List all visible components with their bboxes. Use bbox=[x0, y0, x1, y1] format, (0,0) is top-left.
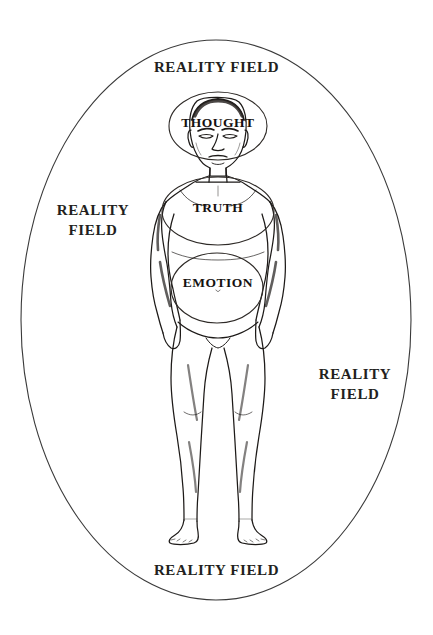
left-hand bbox=[163, 320, 180, 349]
reality-field-label-right: REALITY FIELD bbox=[300, 365, 410, 405]
reality-field-label-left: REALITY FIELD bbox=[38, 201, 148, 241]
left-thigh-shading bbox=[188, 365, 197, 420]
groin-line bbox=[206, 338, 230, 348]
right-calf-shading bbox=[240, 442, 247, 492]
zone-label-thought: THOUGHT bbox=[148, 115, 288, 131]
right-knee bbox=[235, 412, 252, 415]
zone-label-emotion: EMOTION bbox=[148, 275, 288, 291]
human-figure-front-view bbox=[151, 97, 286, 544]
reality-field-label-bottom: REALITY FIELD bbox=[0, 561, 433, 581]
right-toes bbox=[244, 539, 265, 542]
diagram-canvas bbox=[0, 0, 433, 635]
lower-abdomen-crease bbox=[178, 322, 258, 338]
left-calf-shading bbox=[189, 442, 196, 492]
right-biceps-shading bbox=[276, 215, 278, 250]
left-toes bbox=[171, 539, 192, 542]
right-foot bbox=[238, 520, 267, 545]
cheek-shading-right bbox=[235, 143, 240, 155]
right-leg-inner bbox=[224, 348, 239, 521]
right-hand bbox=[256, 320, 273, 349]
left-leg-inner bbox=[197, 348, 212, 521]
reality-field-diagram: REALITY FIELD REALITY FIELD REALITY FIEL… bbox=[0, 0, 433, 635]
neck bbox=[209, 168, 227, 182]
cheek-shading-left bbox=[196, 143, 201, 155]
right-thigh-shading bbox=[239, 365, 248, 420]
reality-field-label-top: REALITY FIELD bbox=[0, 58, 433, 78]
right-leg-outer bbox=[252, 327, 265, 520]
left-knee bbox=[184, 412, 201, 415]
left-biceps-shading bbox=[158, 215, 160, 250]
left-foot bbox=[169, 520, 198, 545]
mouth bbox=[209, 156, 227, 158]
left-eye bbox=[199, 135, 213, 139]
zone-label-truth: TRUTH bbox=[148, 200, 288, 216]
left-leg-outer bbox=[171, 327, 184, 520]
nose bbox=[212, 134, 224, 151]
chin-crease bbox=[212, 163, 224, 165]
right-eye bbox=[223, 135, 237, 139]
